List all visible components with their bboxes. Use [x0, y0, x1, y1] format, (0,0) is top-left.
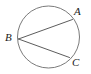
- chord-bc: [19, 39, 70, 58]
- point-label-a: A: [74, 6, 81, 17]
- geometry-figure: A B C: [0, 0, 91, 74]
- circle-outline: [18, 6, 80, 68]
- chord-ba: [19, 20, 73, 40]
- point-label-c: C: [72, 57, 79, 68]
- point-label-b: B: [5, 32, 12, 43]
